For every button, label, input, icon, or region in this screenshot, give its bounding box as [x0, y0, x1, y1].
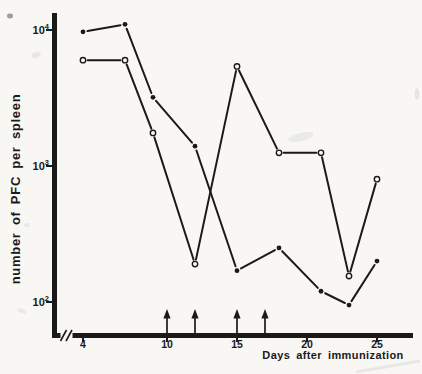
axes	[52, 13, 413, 341]
up-arrow-day-10	[163, 309, 170, 333]
filled-circle-point-day-23	[347, 303, 352, 308]
open-circle-series-segment	[154, 137, 193, 259]
scan-speck	[7, 14, 13, 19]
scan-smudge	[30, 50, 41, 59]
scan-smudge	[287, 130, 314, 144]
filled-circle-series-segment	[351, 265, 374, 301]
scan-streak	[356, 361, 420, 372]
y-tick-label: 104	[33, 22, 50, 36]
arrow-head	[233, 309, 240, 319]
open-circle-series	[80, 57, 379, 278]
y-axis-ticks: 104103102	[33, 22, 52, 308]
filled-circle-series-segment	[88, 25, 121, 31]
scan-smudge	[17, 307, 28, 315]
filled-circle-point-day-7	[123, 22, 128, 27]
x-tick-label-day-4: 4	[80, 338, 86, 350]
filled-circle-series-segment	[325, 293, 345, 303]
y-axis-label: number of PFC per spleen	[8, 94, 23, 285]
pfc-line-chart: 104103102 410152025 number of PFC per sp…	[0, 0, 422, 374]
filled-circle-series-segment	[127, 29, 152, 93]
up-arrow-day-12	[191, 309, 198, 333]
y-axis-line	[52, 13, 57, 338]
open-circle-point-day-9	[150, 130, 155, 135]
open-circle-point-day-18	[276, 150, 281, 155]
filled-circle-point-day-15	[235, 268, 240, 273]
filled-circle-point-day-9	[151, 95, 156, 100]
open-circle-series-segment	[322, 157, 348, 271]
x-axis-label: Days after immunization	[262, 349, 403, 361]
scan-smudge	[24, 223, 30, 227]
open-circle-point-day-12	[192, 261, 197, 266]
filled-circle-series-segment	[241, 250, 275, 268]
open-circle-series-segment	[127, 64, 152, 128]
up-arrow-day-17	[261, 309, 268, 333]
filled-circle-point-day-18	[277, 245, 282, 250]
open-circle-series-segment	[350, 184, 375, 272]
x-tick-label-day-15: 15	[231, 338, 243, 350]
scan-artifacts	[7, 14, 420, 372]
filled-circle-point-day-12	[193, 144, 198, 149]
y-tick-label: 103	[33, 158, 49, 172]
up-arrow-day-15	[233, 309, 240, 333]
filled-circle-series-segment	[156, 101, 192, 143]
filled-circle-series	[81, 22, 380, 307]
x-tick-label-day-10: 10	[161, 338, 173, 350]
open-circle-point-day-25	[374, 176, 379, 181]
filled-circle-point-day-25	[375, 259, 380, 264]
filled-circle-point-day-21	[319, 289, 324, 294]
open-circle-point-day-15	[234, 64, 239, 69]
arrow-head	[163, 309, 170, 319]
scanned-figure-page: 104103102 410152025 number of PFC per sp…	[0, 0, 422, 374]
open-circle-point-day-23	[346, 273, 351, 278]
scan-smudge	[415, 88, 420, 100]
filled-circle-series-segment	[282, 251, 318, 288]
open-circle-series-segment	[239, 71, 277, 149]
open-circle-point-day-4	[80, 57, 85, 62]
data-series	[80, 22, 379, 307]
open-circle-point-day-7	[122, 57, 127, 62]
arrow-head	[191, 309, 198, 319]
filled-circle-point-day-4	[81, 29, 86, 34]
open-circle-point-day-21	[318, 150, 323, 155]
arrow-head	[261, 309, 268, 319]
immunization-event-arrows	[163, 309, 268, 333]
y-tick-label: 102	[33, 294, 49, 308]
